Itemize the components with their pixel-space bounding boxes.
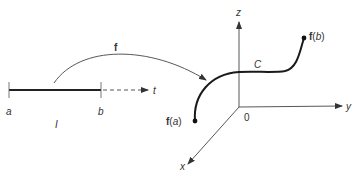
label-f: f (114, 42, 118, 53)
diagram-canvas: t a b I f z y x 0 C f(a) f(b) (0, 0, 358, 178)
label-C: C (254, 59, 262, 70)
label-t: t (153, 85, 157, 96)
label-x: x (179, 161, 186, 172)
label-origin: 0 (244, 112, 250, 123)
label-f-b: f(b) (309, 31, 325, 42)
y-axis (239, 106, 342, 107)
point-f-b (302, 36, 307, 41)
curve-C (195, 38, 304, 121)
label-a: a (6, 106, 12, 117)
label-y: y (345, 101, 352, 112)
label-b: b (98, 106, 104, 117)
label-z: z (235, 7, 241, 18)
mapping-arrow-f (54, 54, 206, 83)
axes (188, 22, 342, 164)
point-f-a (193, 119, 198, 124)
label-f-a: f(a) (166, 116, 182, 127)
interval-segment (9, 82, 148, 98)
label-I: I (55, 119, 58, 130)
